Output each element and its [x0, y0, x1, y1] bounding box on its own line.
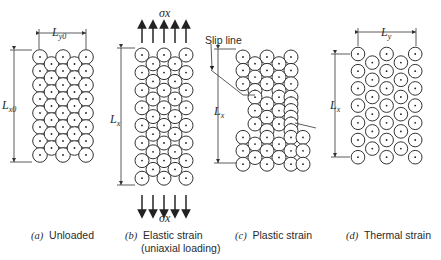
slip-line-pointer	[211, 44, 212, 68]
caption-b: (b) Elastic strain	[125, 229, 203, 241]
caption-a: (a) Unloaded	[31, 229, 94, 241]
dim-ly-label: Ly	[381, 25, 391, 41]
caption-b-line2: (uniaxial loading)	[141, 242, 220, 254]
stress-bottom-label: σx	[159, 211, 170, 226]
dim-lx-label-d: Lx	[330, 98, 340, 114]
dim-lx-label-b: Lx	[110, 112, 120, 128]
dim-lx0-label: Lx0	[2, 98, 16, 114]
stress-top-label: σx	[159, 6, 170, 21]
dim-ly0-label: Ly0	[52, 25, 66, 41]
caption-c: (c) Plastic strain	[235, 229, 312, 241]
slip-line-label: Slip line	[205, 34, 242, 46]
caption-d: (d) Thermal strain	[346, 229, 431, 241]
dim-lx-label-c: Lx	[214, 104, 224, 120]
